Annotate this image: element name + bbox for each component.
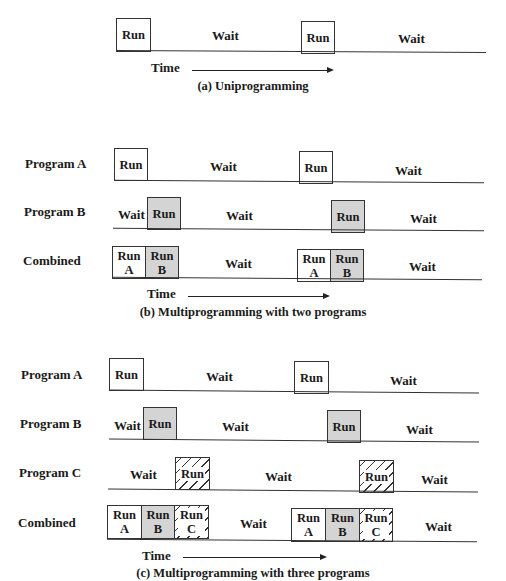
run-b-block: RunB [330,249,364,282]
run-b-block: RunB [141,505,175,539]
caption-b: (b) Multiprogramming with two programs [0,305,506,320]
run-text: Run [120,158,143,172]
wait-text: Wait [114,418,141,434]
run-text: Run [300,371,323,385]
run-a-block: RunA [112,246,146,279]
row-label-combined: Combined [23,253,81,269]
caption-a: (a) Uniprogramming [0,79,506,94]
run-block: Run [299,151,333,184]
run-b-text: RunB [331,511,354,539]
run-b-text: RunB [151,249,174,277]
run-block-hatched: Run [175,457,210,490]
run-c-text: RunC [363,511,390,539]
time-label: Time [151,60,180,76]
wait-text: Wait [240,516,267,532]
time-arrow-icon [188,296,328,297]
wait-text: Wait [421,472,448,488]
run-c-block-hatched: RunC [174,505,209,539]
row-label-program-c: Program C [19,465,81,481]
run-text: Run [333,420,356,434]
run-a-block: RunA [291,508,326,542]
time-label: Time [142,548,171,564]
run-b-text: RunB [147,508,170,536]
wait-text: Wait [118,207,145,223]
row-label-program-b: Program B [24,204,86,220]
wait-text: Wait [212,28,239,44]
run-text: Run [180,467,205,481]
row-label-combined: Combined [18,515,76,531]
row-label-program-a: Program A [25,156,87,172]
wait-text: Wait [409,259,436,275]
row-label-program-b: Program B [20,416,82,432]
run-a-text: RunA [303,252,326,280]
run-b-block: RunB [145,246,179,279]
run-a-text: RunA [297,511,320,539]
run-block: Run [327,410,361,443]
wait-text: Wait [225,256,252,272]
wait-text: Wait [425,519,452,535]
wait-text: Wait [395,163,422,179]
run-c-block-hatched: RunC [359,508,393,542]
wait-text: Wait [390,373,417,389]
run-b-text: RunB [336,252,359,280]
run-block: Run [116,18,151,52]
run-text: Run [149,417,172,431]
run-a-block: RunA [107,505,142,539]
time-label: Time [147,286,176,302]
timeline-axis [108,488,478,492]
run-text: Run [364,470,389,484]
caption-c: (c) Multiprogramming with three programs [0,566,506,581]
wait-text: Wait [398,31,425,47]
wait-text: Wait [410,211,437,227]
run-block: Run [147,197,181,230]
time-arrow-icon [192,70,332,71]
wait-text: Wait [265,469,292,485]
run-text: Run [122,28,145,42]
wait-text: Wait [206,369,233,385]
run-block-hatched: Run [359,460,394,493]
timeline-axis [109,438,479,442]
wait-text: Wait [226,208,253,224]
run-text: Run [337,210,360,224]
run-a-text: RunA [113,508,136,536]
wait-text: Wait [222,419,249,435]
run-block: Run [109,358,144,391]
run-a-text: RunA [118,249,141,277]
run-block: Run [331,200,365,233]
time-arrow-icon [183,557,325,558]
run-block: Run [143,407,177,440]
run-b-block: RunB [325,508,360,542]
run-text: Run [153,207,176,221]
wait-text: Wait [406,422,433,438]
run-text: Run [115,368,138,382]
run-text: Run [307,31,330,45]
wait-text: Wait [130,467,157,483]
run-text: Run [305,161,328,175]
run-block: Run [294,361,329,394]
wait-text: Wait [210,159,237,175]
run-c-text: RunC [178,508,205,536]
row-label-program-a: Program A [21,367,83,383]
run-block: Run [301,21,335,54]
run-block: Run [114,148,148,181]
